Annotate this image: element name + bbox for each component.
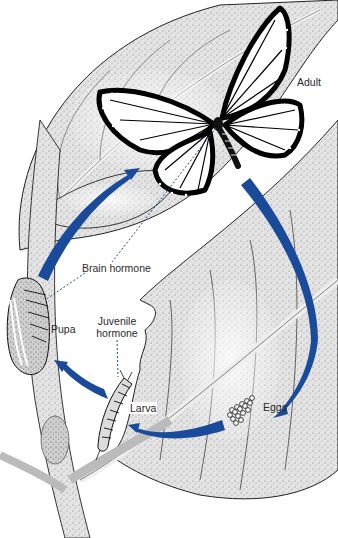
label-juvenile-hormone-line1: Juvenile: [93, 315, 141, 327]
label-juvenile-hormone: Juvenile hormone: [93, 315, 141, 339]
label-pupa: Pupa: [51, 323, 76, 335]
label-brain-hormone: Brain hormone: [82, 262, 151, 274]
label-juvenile-hormone-line2: hormone: [93, 327, 141, 339]
illustration: [0, 0, 338, 538]
arrow-larva-to-pupa: [62, 364, 108, 399]
life-cycle-diagram: Adult Brain hormone Pupa Juvenile hormon…: [0, 0, 338, 538]
juvenile-hormone-line: [117, 340, 118, 377]
label-larva: Larva: [129, 402, 157, 414]
pupa-illustration: [7, 278, 49, 375]
label-adult: Adult: [297, 76, 321, 88]
label-eggs: Eggs: [263, 401, 287, 413]
